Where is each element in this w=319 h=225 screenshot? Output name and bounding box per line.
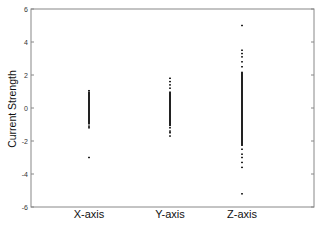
category-labels: X-axisY-axisZ-axis [74,208,258,220]
data-point [169,127,171,128]
dense-band [88,92,90,125]
data-point [241,66,243,67]
category-label: Y-axis [155,208,185,220]
data-point [241,193,243,194]
data-point [88,125,90,126]
data-point [88,90,90,91]
dense-band [241,72,243,146]
dense-band [169,92,171,127]
y-axis-label: Current Strength [6,70,18,148]
data-point [88,127,90,128]
data-point [241,50,243,51]
y-tick-label: -6 [22,204,28,211]
data-point [241,61,243,62]
data-point [241,149,243,150]
data-point [169,130,171,131]
y-axis-ticks: 6420-2-4-6 [22,6,314,211]
y-tick-label: 4 [24,39,28,46]
data-point [241,157,243,158]
data-point [241,167,243,168]
y-tick-label: 0 [24,105,28,112]
y-tick-label: -4 [22,171,28,178]
data-point [169,78,171,79]
y-tick-label: -2 [22,138,28,145]
data-point [241,154,243,155]
data-point [241,25,243,26]
data-points [88,25,243,195]
data-point [169,81,171,82]
category-label: Z-axis [227,208,257,220]
scatter-chart: 6420-2-4-6 X-axisY-axisZ-axis Current St… [0,0,319,225]
data-point [241,53,243,54]
data-point [88,157,90,158]
category-label: X-axis [74,208,105,220]
y-tick-label: 2 [24,72,28,79]
data-point [169,84,171,85]
data-point [169,132,171,133]
plot-frame [31,9,314,207]
data-point [169,88,171,89]
data-point [241,162,243,163]
y-tick-label: 6 [24,6,28,13]
data-point [169,135,171,136]
data-point [241,56,243,57]
